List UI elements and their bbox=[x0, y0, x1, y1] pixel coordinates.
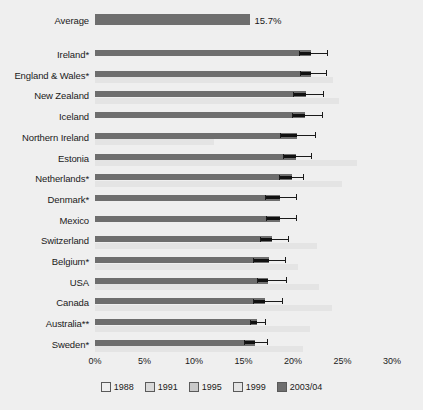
legend-item[interactable]: 1991 bbox=[145, 382, 178, 392]
category-label: New Zealand bbox=[34, 90, 89, 101]
error-bar-range bbox=[265, 196, 280, 199]
error-bar-cap bbox=[260, 237, 261, 242]
average-value-label: 15.7% bbox=[254, 15, 281, 26]
bar-1999 bbox=[95, 243, 317, 249]
plot-area: 15.7% bbox=[95, 6, 392, 352]
category-label: Australia** bbox=[46, 318, 89, 329]
error-bar-cap bbox=[296, 215, 297, 221]
error-bar-range bbox=[283, 155, 296, 158]
bar-chart: AverageIreland*England & Wales*New Zeala… bbox=[0, 0, 423, 410]
bar-2003-04 bbox=[95, 340, 255, 346]
legend-swatch bbox=[189, 382, 199, 392]
bar-2003-04 bbox=[95, 174, 292, 180]
error-bar-cap bbox=[323, 91, 324, 97]
bar-1999 bbox=[95, 98, 339, 104]
error-bar-range bbox=[260, 238, 272, 241]
error-bar-range bbox=[266, 217, 280, 220]
error-bar-cap bbox=[315, 132, 316, 138]
category-label: Belgium* bbox=[52, 256, 89, 267]
error-bar-cap bbox=[282, 298, 283, 304]
category-label: Denmark* bbox=[48, 194, 89, 205]
error-bar-range bbox=[257, 279, 268, 282]
category-label: USA bbox=[70, 277, 89, 288]
legend-item[interactable]: 1988 bbox=[101, 382, 134, 392]
category-label: Canada bbox=[56, 297, 89, 308]
error-bar-range bbox=[300, 72, 311, 75]
error-bar-cap bbox=[293, 92, 294, 97]
error-bar-cap bbox=[266, 216, 267, 221]
category-label-average: Average bbox=[54, 15, 89, 26]
x-axis: 0%5%10%15%20%25%30% bbox=[95, 356, 392, 370]
error-bar-range bbox=[244, 341, 256, 344]
error-bar-cap bbox=[253, 258, 254, 263]
legend-swatch bbox=[233, 382, 243, 392]
x-axis-tick: 5% bbox=[138, 356, 151, 366]
bar-1999 bbox=[95, 77, 333, 83]
bar-1999 bbox=[95, 160, 357, 166]
category-label: Mexico bbox=[60, 215, 90, 226]
error-bar-range bbox=[253, 259, 269, 262]
bar-2003-04 bbox=[95, 112, 305, 118]
category-label: Iceland bbox=[59, 111, 89, 122]
legend-label: 1991 bbox=[158, 382, 178, 392]
bar-2003-04 bbox=[95, 91, 306, 97]
category-label: Netherlands* bbox=[35, 173, 89, 184]
bar-2003-04 bbox=[95, 236, 272, 242]
error-bar-cap bbox=[279, 175, 280, 180]
error-bar-range bbox=[293, 93, 306, 96]
error-bar-cap bbox=[253, 299, 254, 304]
category-label: Switzerland bbox=[41, 235, 89, 246]
error-bar-cap bbox=[292, 113, 293, 118]
error-bar-cap bbox=[267, 339, 268, 345]
category-label: Ireland* bbox=[57, 49, 89, 60]
error-bar-cap bbox=[283, 154, 284, 159]
legend-label: 1995 bbox=[202, 382, 222, 392]
legend-swatch bbox=[277, 382, 287, 392]
error-bar-cap bbox=[286, 277, 287, 283]
legend-label: 1988 bbox=[114, 382, 134, 392]
legend-item[interactable]: 2003/04 bbox=[277, 382, 323, 392]
bar-2003-04 bbox=[95, 298, 265, 304]
x-axis-tick: 25% bbox=[333, 356, 351, 366]
bar-1999 bbox=[95, 181, 342, 187]
category-label: Sweden* bbox=[52, 339, 89, 350]
bar-2003-04 bbox=[95, 319, 257, 325]
category-label: Estonia bbox=[58, 153, 89, 164]
error-bar-cap bbox=[250, 320, 251, 325]
error-bar-cap bbox=[322, 112, 323, 118]
category-label: England & Wales* bbox=[14, 70, 89, 81]
error-bar-cap bbox=[327, 50, 328, 56]
x-axis-tick: 30% bbox=[383, 356, 401, 366]
error-bar-range bbox=[292, 114, 305, 117]
legend-swatch bbox=[101, 382, 111, 392]
category-labels: AverageIreland*England & Wales*New Zeala… bbox=[0, 6, 89, 352]
bar-1999 bbox=[95, 326, 310, 332]
error-bar-cap bbox=[303, 174, 304, 180]
legend-item[interactable]: 1995 bbox=[189, 382, 222, 392]
error-bar-cap bbox=[265, 319, 266, 325]
bar-2003-04 bbox=[95, 278, 268, 284]
error-bar-cap bbox=[326, 70, 327, 76]
error-bar-range bbox=[253, 300, 265, 303]
legend-label: 1999 bbox=[246, 382, 266, 392]
bar-2003-04 bbox=[95, 71, 311, 77]
error-bar-cap bbox=[265, 195, 266, 200]
error-bar-cap bbox=[285, 257, 286, 263]
error-bar-cap bbox=[288, 236, 289, 242]
bar-2003-04 bbox=[95, 133, 297, 139]
legend-swatch bbox=[145, 382, 155, 392]
category-label: Northern Ireland bbox=[22, 132, 89, 143]
error-bar-range bbox=[299, 52, 311, 55]
legend-item[interactable]: 1999 bbox=[233, 382, 266, 392]
error-bar-range bbox=[250, 321, 257, 324]
x-axis-tick: 20% bbox=[284, 356, 302, 366]
bar-1999 bbox=[95, 139, 214, 145]
bar-1999 bbox=[95, 305, 332, 311]
error-bar-cap bbox=[244, 340, 245, 345]
error-bar-cap bbox=[300, 71, 301, 76]
x-axis-tick: 10% bbox=[185, 356, 203, 366]
bar-2003-04 bbox=[95, 50, 311, 56]
bar-1999 bbox=[95, 346, 303, 352]
error-bar-cap bbox=[311, 153, 312, 159]
bar-2003-04 bbox=[95, 257, 269, 263]
